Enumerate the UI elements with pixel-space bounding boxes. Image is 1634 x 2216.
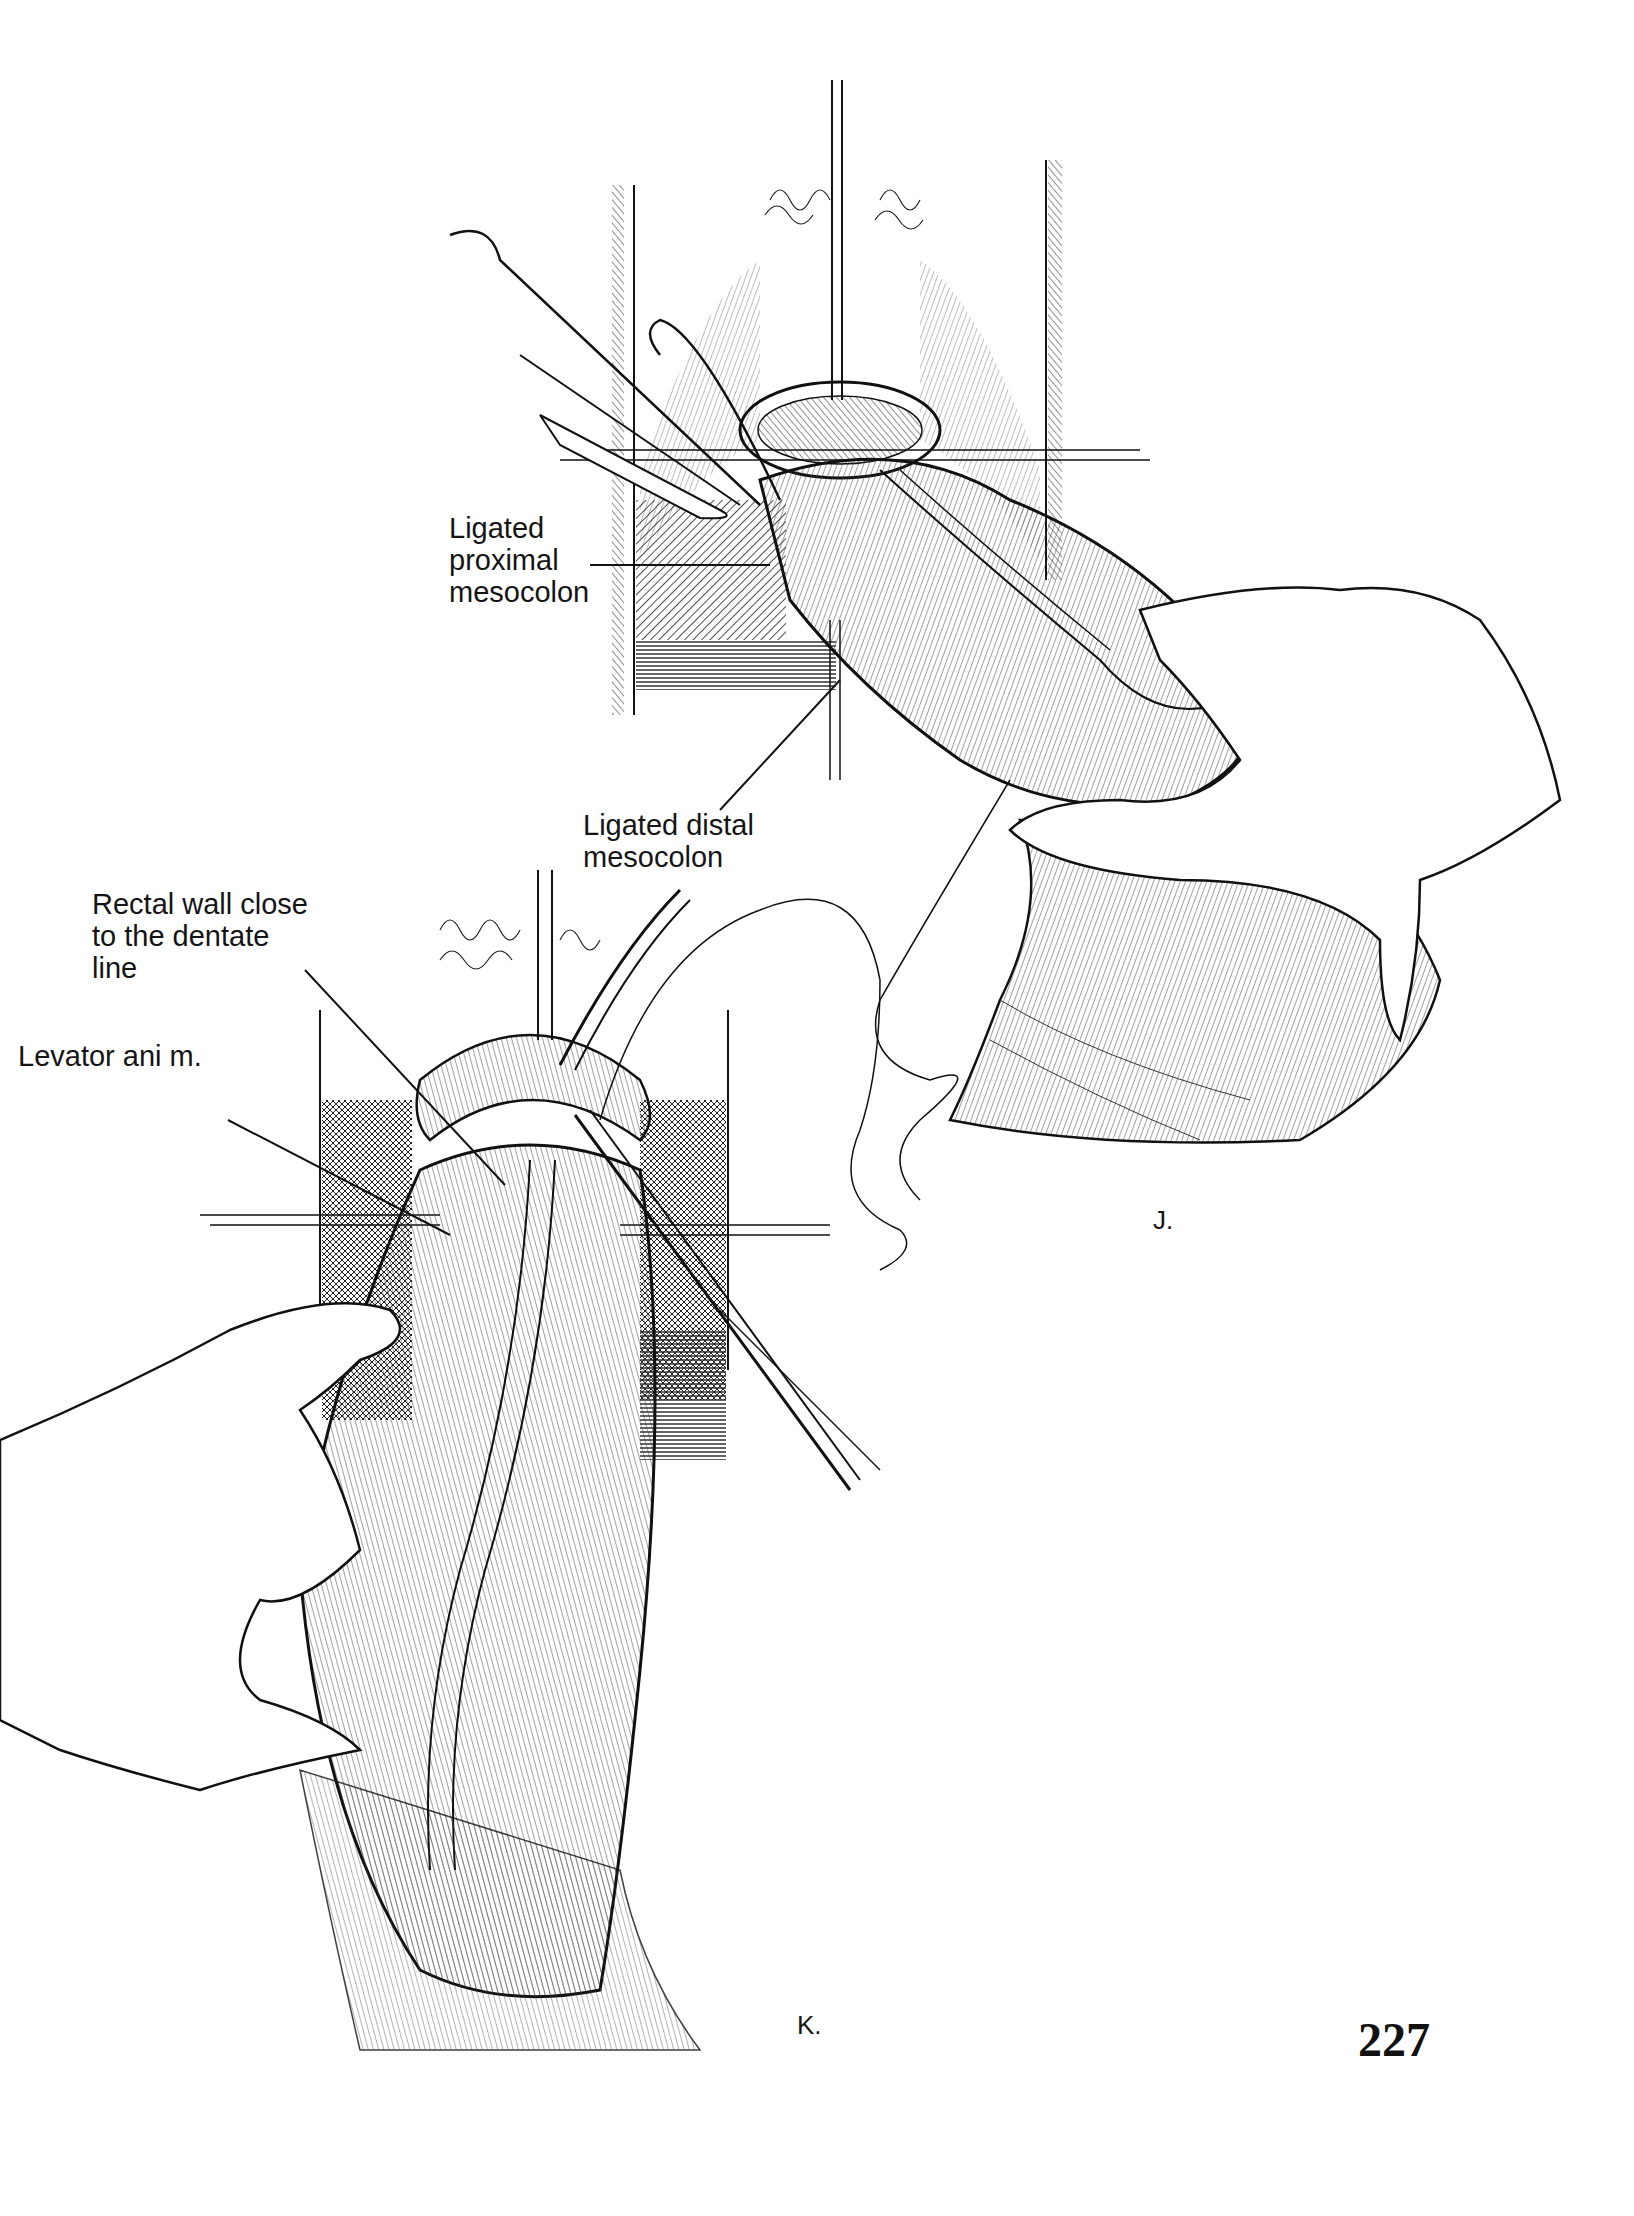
callout-ligated-proximal-mesocolon: Ligated proximal mesocolon xyxy=(449,512,589,608)
page-number: 227 xyxy=(1358,2012,1430,2067)
callout-ligated-distal-mesocolon: Ligated distal mesocolon xyxy=(583,809,754,873)
figure-k: Rectal wall close to the dentate line Le… xyxy=(0,870,1634,2070)
callout-rectal-wall-dentate-line: Rectal wall close to the dentate line xyxy=(92,888,308,984)
panel-label-k: K. xyxy=(797,2010,822,2041)
figure-k-illustration xyxy=(0,870,1634,2070)
callout-levator-ani: Levator ani m. xyxy=(18,1040,202,1072)
